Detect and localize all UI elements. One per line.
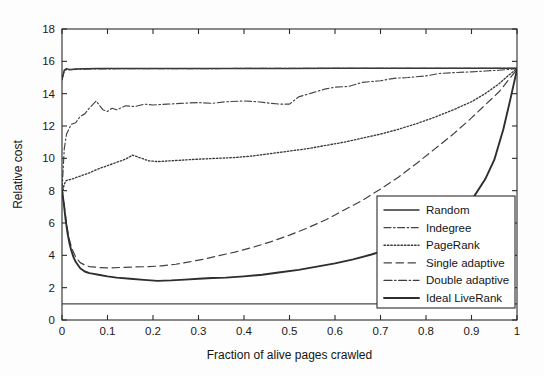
y-tick-label: 2: [49, 282, 55, 294]
legend-label-single-adaptive: Single adaptive: [426, 257, 505, 269]
chart-figure: 00.10.20.30.40.50.60.70.80.91 0246810121…: [0, 0, 544, 376]
y-tick-label: 12: [42, 120, 55, 132]
chart-svg: 00.10.20.30.40.50.60.70.80.91 0246810121…: [0, 0, 544, 376]
x-tick-label: 0.1: [100, 325, 116, 337]
x-axis-label: Fraction of alive pages crawled: [207, 348, 372, 362]
y-tick-label: 8: [49, 185, 55, 197]
x-tick-label: 0.8: [418, 325, 434, 337]
x-tick-label: 0.3: [191, 325, 207, 337]
y-tick-label: 10: [42, 152, 55, 164]
y-axis-label: Relative cost: [11, 139, 25, 208]
x-tick-label: 0.2: [145, 325, 161, 337]
y-tick-label: 6: [49, 217, 55, 229]
x-tick-label: 0.9: [464, 325, 480, 337]
chart-legend: RandomIndegreePageRankSingle adaptiveDou…: [377, 196, 515, 308]
legend-label-ideal-liverank: Ideal LiveRank: [426, 292, 502, 304]
x-tick-label: 0.5: [282, 325, 298, 337]
y-axis-tick-labels: 024681012141618: [42, 23, 55, 326]
legend-label-double-adaptive: Double adaptive: [426, 274, 509, 286]
x-tick-label: 0.6: [327, 325, 343, 337]
x-tick-label: 0.7: [373, 325, 389, 337]
y-tick-label: 0: [49, 314, 55, 326]
legend-label-random: Random: [426, 204, 469, 216]
x-tick-label: 0: [59, 325, 65, 337]
x-tick-label: 0.4: [236, 325, 253, 337]
y-tick-label: 16: [42, 55, 55, 67]
y-tick-label: 14: [42, 88, 55, 100]
x-tick-label: 1: [514, 325, 520, 337]
legend-label-pagerank: PageRank: [426, 239, 480, 251]
legend-label-indegree: Indegree: [426, 222, 471, 234]
x-axis-tick-labels: 00.10.20.30.40.50.60.70.80.91: [59, 325, 520, 337]
y-tick-label: 18: [42, 23, 55, 35]
y-tick-label: 4: [49, 249, 56, 261]
